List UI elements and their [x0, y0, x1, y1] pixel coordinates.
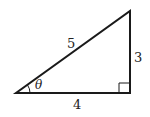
triangle-diagram: 5 3 4 θ — [0, 0, 150, 117]
adjacent-side-label: 4 — [73, 97, 81, 112]
angle-arc — [28, 85, 31, 93]
right-angle-marker — [119, 83, 130, 93]
triangle — [16, 11, 130, 93]
hypotenuse-label: 5 — [67, 36, 75, 51]
opposite-side-label: 3 — [134, 50, 142, 65]
angle-label: θ — [35, 78, 43, 92]
